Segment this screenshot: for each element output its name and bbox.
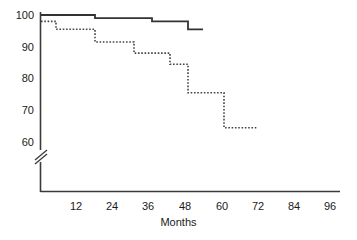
y-tick-label-60: 60: [4, 137, 34, 148]
x-tick-label-60: 60: [216, 201, 228, 212]
x-axis-title: Months: [0, 216, 357, 228]
x-tick-label-72: 72: [252, 201, 264, 212]
x-tick-label-96: 96: [324, 201, 336, 212]
x-tick-label-48: 48: [179, 201, 191, 212]
survival-chart: 100 90 80 70 60 12 24 36 48 60 72 84 96 …: [0, 0, 357, 240]
series-line-2: [41, 21, 257, 127]
y-tick-label-100: 100: [4, 10, 34, 21]
x-tick-label-24: 24: [106, 201, 118, 212]
x-tick-label-36: 36: [142, 201, 154, 212]
y-tick-label-80: 80: [4, 73, 34, 84]
y-axis-break-icon: [35, 150, 47, 164]
series-line-1: [41, 15, 203, 29]
y-tick-label-90: 90: [4, 42, 34, 53]
x-tick-label-12: 12: [70, 201, 82, 212]
y-tick-label-70: 70: [4, 105, 34, 116]
series-layer: [41, 15, 257, 128]
x-tick-label-84: 84: [288, 201, 300, 212]
